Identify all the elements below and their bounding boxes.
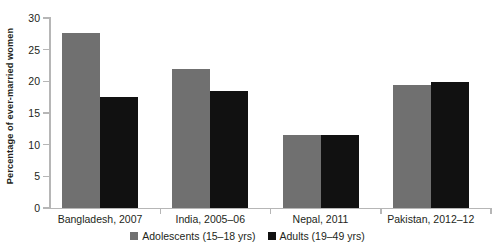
y-axis-tick-label: 25 — [0, 44, 40, 56]
x-axis-category-label: Pakistan, 2012–12 — [361, 213, 495, 225]
bar-adolescents — [62, 33, 100, 208]
legend-item-label: Adults (19–49 yrs) — [280, 230, 365, 242]
y-axis-tick — [43, 176, 49, 178]
bar-chart-figure: Percentage of ever-married women 0510152… — [0, 0, 495, 248]
bar-adults — [321, 135, 359, 208]
y-axis-tick — [43, 17, 49, 19]
bar-adults — [210, 91, 248, 208]
plot-area — [50, 18, 491, 208]
y-axis-tick-labels: 051015202530 — [0, 0, 40, 248]
y-axis-tick-label: 5 — [0, 170, 40, 182]
chart-legend: Adolescents (15–18 yrs)Adults (19–49 yrs… — [0, 230, 495, 242]
adults-swatch — [268, 232, 276, 240]
y-axis-tick-label: 15 — [0, 107, 40, 119]
y-axis-tick — [43, 112, 49, 114]
bar-adults — [100, 97, 138, 208]
bar-adolescents — [283, 135, 321, 208]
y-axis-tick — [43, 81, 49, 83]
bar-adolescents — [393, 85, 431, 208]
legend-item: Adolescents (15–18 yrs) — [130, 230, 255, 242]
y-axis-tick-label: 20 — [0, 75, 40, 87]
bar-adults — [431, 82, 469, 208]
legend-item: Adults (19–49 yrs) — [268, 230, 365, 242]
y-axis-tick — [43, 207, 49, 209]
bar-adolescents — [172, 69, 210, 208]
adolescents-swatch — [130, 232, 138, 240]
y-axis-tick — [43, 144, 49, 146]
y-axis-tick — [43, 49, 49, 51]
y-axis-tick-label: 10 — [0, 139, 40, 151]
y-axis-tick-label: 30 — [0, 12, 40, 24]
legend-item-label: Adolescents (15–18 yrs) — [142, 230, 255, 242]
